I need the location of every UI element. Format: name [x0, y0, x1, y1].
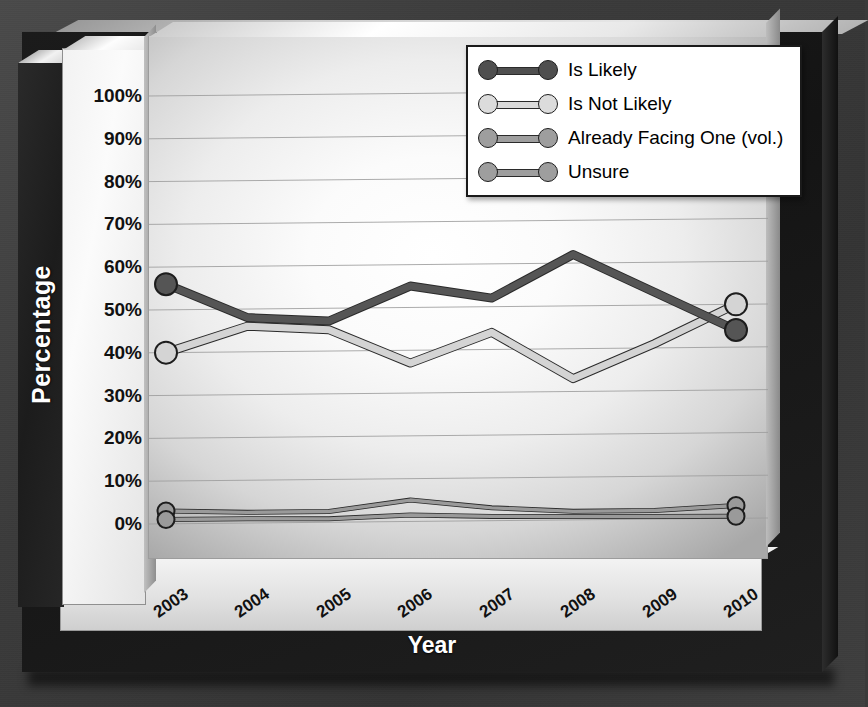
legend-item[interactable]: Unsure — [478, 155, 790, 189]
series-endpoint-marker — [158, 511, 175, 528]
legend-key-dot-right — [538, 162, 558, 182]
y-axis-title: Percentage — [18, 62, 64, 607]
legend-key-dot-left — [478, 128, 498, 148]
series-endpoint-marker — [725, 293, 747, 315]
gridline — [148, 261, 768, 267]
legend-item-label: Is Likely — [568, 59, 637, 81]
y-tick-label: 70% — [104, 213, 142, 235]
gridline — [148, 390, 768, 396]
legend-key-icon — [478, 127, 558, 149]
y-tick-label: 10% — [104, 470, 142, 492]
series-endpoint-marker — [155, 342, 177, 364]
legend-key-dot-right — [538, 128, 558, 148]
base-side-bevel — [822, 16, 838, 672]
legend-item[interactable]: Already Facing One (vol.) — [478, 121, 790, 155]
gridline — [148, 432, 768, 438]
series-endpoint-marker — [725, 319, 747, 341]
y-tick-label: 0% — [115, 513, 142, 535]
legend-item-label: Unsure — [568, 161, 629, 183]
legend-key-dot-left — [478, 60, 498, 80]
series-endpoint-marker — [728, 508, 745, 525]
y-tick-label: 20% — [104, 427, 142, 449]
legend-key-icon — [478, 161, 558, 183]
x-axis-title: Year — [62, 632, 802, 659]
plot-top-bevel — [149, 22, 791, 37]
legend-item[interactable]: Is Likely — [478, 53, 790, 87]
legend-key-dot-left — [478, 162, 498, 182]
legend-key-dot-left — [478, 94, 498, 114]
legend-key-dot-right — [538, 94, 558, 114]
chart-legend: Is LikelyIs Not LikelyAlready Facing One… — [466, 45, 802, 197]
y-tick-label: 30% — [104, 385, 142, 407]
y-axis-title-text: Percentage — [27, 265, 56, 404]
legend-item-label: Is Not Likely — [568, 93, 671, 115]
series-endpoint-marker — [155, 273, 177, 295]
y-tick-label: 40% — [104, 342, 142, 364]
y-tick-label: 80% — [104, 171, 142, 193]
legend-key-dot-right — [538, 60, 558, 80]
y-tick-label: 100% — [93, 85, 142, 107]
y-tick-label: 90% — [104, 128, 142, 150]
legend-item-label: Already Facing One (vol.) — [568, 127, 783, 149]
y-tick-label: 50% — [104, 299, 142, 321]
gridline — [148, 475, 768, 481]
y-tick-label: 60% — [104, 256, 142, 278]
legend-item[interactable]: Is Not Likely — [478, 87, 790, 121]
gridline — [148, 218, 768, 224]
legend-key-icon — [478, 59, 558, 81]
legend-key-icon — [478, 93, 558, 115]
